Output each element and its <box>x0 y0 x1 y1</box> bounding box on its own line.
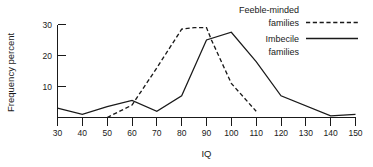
x-tick-label-110: 110 <box>249 128 263 138</box>
x-tick-label-30: 30 <box>53 128 63 138</box>
y-axis-title: Frequency percent <box>5 32 16 112</box>
chart-legend: Feeble-minded families Imbecile families <box>239 5 358 57</box>
x-axis-ticks <box>58 118 356 126</box>
chart-container: Frequency percent 30 20 10 <box>0 0 373 167</box>
x-tick-label-150: 150 <box>348 128 362 138</box>
legend-entry-0-line2: families <box>268 18 299 28</box>
series-feeble-minded-families <box>107 28 256 118</box>
y-tick-label-30: 30 <box>43 20 53 30</box>
x-tick-label-50: 50 <box>102 128 112 138</box>
x-tick-label-100: 100 <box>224 128 238 138</box>
legend-entry-1-line1: Imbecile <box>265 34 299 44</box>
iq-frequency-line-chart: Frequency percent 30 20 10 <box>0 0 373 167</box>
y-axis-ticks <box>58 25 66 87</box>
y-axis-tick-labels: 30 20 10 <box>43 20 53 92</box>
x-tick-label-70: 70 <box>152 128 162 138</box>
x-tick-label-80: 80 <box>177 128 187 138</box>
y-tick-label-10: 10 <box>43 82 53 92</box>
x-axis-tick-labels: 30 40 50 60 70 80 90 100 110 120 130 140… <box>53 128 363 138</box>
series-imbecile-families <box>58 32 356 116</box>
x-tick-label-130: 130 <box>299 128 313 138</box>
y-tick-label-20: 20 <box>43 51 53 61</box>
x-axis-title: IQ <box>201 148 211 159</box>
x-tick-label-140: 140 <box>324 128 338 138</box>
x-tick-label-60: 60 <box>127 128 137 138</box>
x-tick-label-120: 120 <box>274 128 288 138</box>
legend-entry-1-line2: families <box>268 47 299 57</box>
x-tick-label-90: 90 <box>202 128 212 138</box>
x-tick-label-40: 40 <box>78 128 88 138</box>
legend-entry-0-line1: Feeble-minded <box>239 5 299 15</box>
